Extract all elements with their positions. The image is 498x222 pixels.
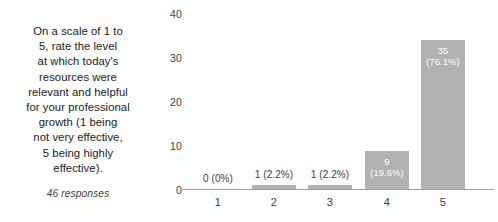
y-tick-label: 0 (142, 184, 182, 196)
x-tick-label-1: 1 (190, 196, 246, 208)
x-axis: 1 2 3 4 5 (190, 0, 492, 222)
bar-chart: 0 10 20 30 40 0 (0%) 1 (2.2%) 1 (148, 0, 498, 222)
survey-chart-card: On a scale of 1 to 5, rate the level at … (0, 0, 498, 222)
x-tick-label-5: 5 (415, 196, 471, 208)
y-tick-label: 40 (142, 8, 182, 20)
x-tick-label-4: 4 (359, 196, 415, 208)
responses-count: 46 responses (8, 188, 148, 199)
y-tick-label: 30 (142, 52, 182, 64)
x-tick-label-3: 3 (302, 196, 358, 208)
x-tick-label-2: 2 (246, 196, 302, 208)
y-tick-label: 10 (142, 140, 182, 152)
question-block: On a scale of 1 to 5, rate the level at … (8, 24, 148, 199)
y-tick-label: 20 (142, 96, 182, 108)
page-title: On a scale of 1 to 5, rate the level at … (8, 24, 148, 176)
